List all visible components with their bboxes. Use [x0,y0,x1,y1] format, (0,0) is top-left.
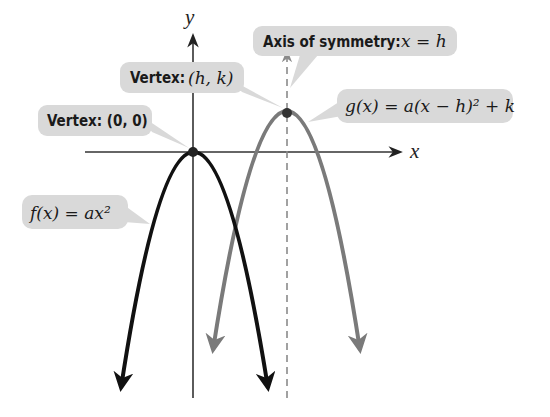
axis-of-symmetry-prefix: Axis of symmetry: [263,33,401,51]
g-equation-label: g(x) = a(x − h)² + k [345,96,515,116]
y-axis-label: y [183,5,195,29]
vertex-point-origin [188,147,198,157]
f-equation-callout: f(x) = ax² [22,195,150,229]
vertex-hk-prefix: Vertex: [130,69,185,87]
parabola-diagram: y x Axis of symmetry: x = h Vertex: (h, … [0,0,550,417]
vertex-point-hk [282,108,292,118]
axis-of-symmetry-math: x = h [401,31,447,51]
vertex-hk-math: (h, k) [188,68,233,88]
vertex-origin-label: Vertex: (0, 0) [47,112,148,130]
g-equation-callout: g(x) = a(x − h)² + k [308,89,515,123]
vertex-origin-callout: Vertex: (0, 0) [38,105,189,148]
x-axis-label: x [409,139,420,163]
f-equation-label: f(x) = ax² [28,203,111,223]
axis-of-symmetry-callout: Axis of symmetry: x = h [253,26,457,88]
vertex-hk-callout: Vertex: (h, k) [120,62,283,108]
